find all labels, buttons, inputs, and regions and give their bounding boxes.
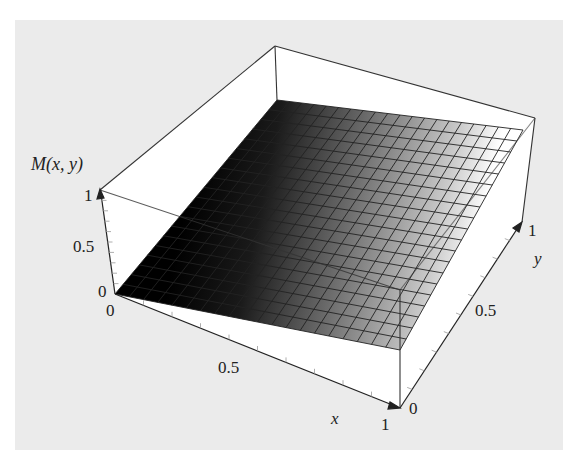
surface-plot	[0, 0, 573, 461]
x-tick-1: 1	[381, 416, 390, 433]
x-tick-0.5: 0.5	[218, 359, 239, 376]
y-tick-1: 1	[528, 222, 537, 239]
x-tick-0: 0	[106, 302, 115, 319]
y-tick-0: 0	[409, 400, 418, 417]
x-axis-label: x	[331, 410, 339, 427]
z-tick-0: 0	[98, 283, 107, 300]
z-axis-label: M(x, y)	[31, 155, 83, 173]
y-axis-label: y	[534, 250, 542, 267]
z-tick-0.5: 0.5	[73, 238, 94, 255]
z-tick-1: 1	[84, 187, 93, 204]
y-tick-0.5: 0.5	[475, 302, 496, 319]
